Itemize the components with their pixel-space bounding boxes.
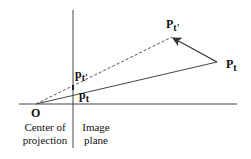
projection-diagram: O Center of projection Image plane pt' p…	[0, 0, 251, 159]
center-label-1: Center of	[24, 121, 66, 133]
ray-to-pt	[36, 62, 217, 104]
image-plane-label-2: plane	[84, 134, 108, 146]
p-main-label: Pt	[226, 57, 237, 73]
p-prime-label: Pt'	[166, 17, 180, 33]
center-label-2: projection	[23, 134, 68, 146]
image-plane-label-1: Image	[82, 121, 110, 133]
origin-label: O	[31, 106, 40, 120]
motion-arrow	[173, 38, 217, 62]
p-img-prime-label: pt'	[75, 67, 88, 83]
p-img-label: pt	[79, 88, 90, 104]
ray-to-pt-prime	[36, 37, 172, 104]
